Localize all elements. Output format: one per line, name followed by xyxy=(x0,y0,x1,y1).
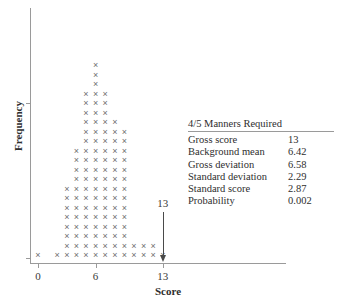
data-mark: × xyxy=(103,146,108,155)
data-mark: × xyxy=(122,165,127,174)
data-mark: × xyxy=(103,213,108,222)
stats-table: Gross score13Background mean6.42Gross de… xyxy=(188,134,334,207)
data-mark: × xyxy=(93,146,98,155)
data-mark: × xyxy=(103,232,108,241)
data-mark: × xyxy=(64,232,69,241)
data-mark: × xyxy=(93,61,98,70)
stats-row-value: 6.58 xyxy=(280,158,334,170)
stats-panel-divider xyxy=(188,131,334,132)
data-mark: × xyxy=(103,175,108,184)
data-mark: × xyxy=(74,175,79,184)
data-mark: × xyxy=(83,165,88,174)
data-mark: × xyxy=(74,194,79,203)
stats-row: Standard deviation2.29 xyxy=(188,171,334,183)
data-mark: × xyxy=(83,89,88,98)
stats-row-label: Probability xyxy=(188,195,280,207)
data-mark: × xyxy=(93,184,98,193)
data-mark: × xyxy=(74,165,79,174)
data-mark: × xyxy=(93,108,98,117)
data-mark: × xyxy=(122,184,127,193)
data-mark: × xyxy=(64,213,69,222)
data-mark: × xyxy=(103,118,108,127)
data-mark: × xyxy=(93,222,98,231)
data-mark: × xyxy=(64,184,69,193)
stats-row-value: 0.002 xyxy=(280,195,334,207)
data-mark: × xyxy=(74,146,79,155)
data-mark: × xyxy=(122,203,127,212)
data-mark: × xyxy=(103,156,108,165)
annotation-arrow-head xyxy=(160,255,166,262)
data-mark: × xyxy=(74,203,79,212)
stats-row-value: 2.29 xyxy=(280,171,334,183)
stats-row: Gross score13 xyxy=(188,134,334,146)
data-mark: × xyxy=(83,251,88,260)
data-mark: × xyxy=(93,194,98,203)
data-mark: × xyxy=(93,80,98,89)
data-mark: × xyxy=(112,137,117,146)
data-mark: × xyxy=(93,232,98,241)
data-mark: × xyxy=(64,251,69,260)
data-mark: × xyxy=(122,137,127,146)
data-mark: × xyxy=(93,241,98,250)
data-mark: × xyxy=(93,156,98,165)
data-mark: × xyxy=(122,241,127,250)
stats-row: Standard score2.87 xyxy=(188,183,334,195)
data-mark: × xyxy=(55,251,60,260)
stats-row: Background mean6.42 xyxy=(188,146,334,158)
data-mark: × xyxy=(93,137,98,146)
data-mark: × xyxy=(103,184,108,193)
data-mark: × xyxy=(103,137,108,146)
data-mark: × xyxy=(103,222,108,231)
stats-panel-title: 4/5 Manners Required xyxy=(188,118,334,131)
data-mark: × xyxy=(93,213,98,222)
data-mark: × xyxy=(83,194,88,203)
data-mark: × xyxy=(103,203,108,212)
data-mark: × xyxy=(122,213,127,222)
data-mark: × xyxy=(122,194,127,203)
data-mark: × xyxy=(74,184,79,193)
stats-row: Probability0.002 xyxy=(188,195,334,207)
data-mark: × xyxy=(83,127,88,136)
data-mark: × xyxy=(141,241,146,250)
data-mark: × xyxy=(74,213,79,222)
stats-row-value: 13 xyxy=(280,134,334,146)
data-mark: × xyxy=(74,251,79,260)
stats-panel: 4/5 Manners Required Gross score13Backgr… xyxy=(188,118,334,207)
data-mark: × xyxy=(93,165,98,174)
data-mark: × xyxy=(74,156,79,165)
data-mark: × xyxy=(93,251,98,260)
data-mark: × xyxy=(83,146,88,155)
data-mark: × xyxy=(131,251,136,260)
data-mark: × xyxy=(103,165,108,174)
data-mark: × xyxy=(112,184,117,193)
data-mark: × xyxy=(103,127,108,136)
data-mark: × xyxy=(103,99,108,108)
data-mark: × xyxy=(112,127,117,136)
data-mark: × xyxy=(103,108,108,117)
data-mark: × xyxy=(83,213,88,222)
stats-row-label: Standard deviation xyxy=(188,171,280,183)
data-mark: × xyxy=(83,99,88,108)
data-mark: × xyxy=(83,108,88,117)
data-mark: × xyxy=(64,241,69,250)
data-mark: × xyxy=(93,70,98,79)
data-mark: × xyxy=(74,232,79,241)
data-mark: × xyxy=(112,241,117,250)
stats-row: Gross deviation6.58 xyxy=(188,158,334,170)
data-mark: × xyxy=(83,222,88,231)
data-mark: × xyxy=(103,89,108,98)
stats-row-label: Gross deviation xyxy=(188,158,280,170)
stats-row-value: 6.42 xyxy=(280,146,334,158)
data-mark: × xyxy=(131,241,136,250)
data-mark: × xyxy=(112,175,117,184)
data-mark: × xyxy=(83,118,88,127)
data-mark: × xyxy=(64,194,69,203)
stats-row-label: Standard score xyxy=(188,183,280,195)
annotation-arrow-shaft xyxy=(163,212,164,255)
data-mark: × xyxy=(83,232,88,241)
data-mark: × xyxy=(83,184,88,193)
data-mark: × xyxy=(74,241,79,250)
data-mark: × xyxy=(83,175,88,184)
data-mark: × xyxy=(122,232,127,241)
stats-row-label: Background mean xyxy=(188,146,280,158)
